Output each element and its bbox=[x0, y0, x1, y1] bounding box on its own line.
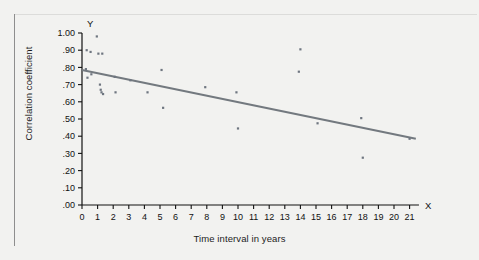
data-point bbox=[114, 91, 116, 93]
trendline bbox=[82, 70, 416, 139]
x-tick-label: 8 bbox=[204, 212, 209, 222]
data-point bbox=[86, 77, 88, 79]
data-point bbox=[162, 107, 164, 109]
data-point bbox=[360, 117, 362, 119]
x-tick-label: 7 bbox=[189, 212, 194, 222]
x-tick-label: 17 bbox=[342, 212, 352, 222]
data-point bbox=[90, 73, 92, 75]
data-point bbox=[97, 53, 99, 55]
x-tick-label: 16 bbox=[327, 212, 337, 222]
scatter-plot-svg: .00.10.20.30.40.50.60.70.80.901.00 01234… bbox=[0, 0, 479, 260]
x-tick-label: 10 bbox=[233, 212, 243, 222]
data-point bbox=[237, 127, 239, 129]
x-tick-label: 6 bbox=[173, 212, 178, 222]
y-tick-label: .20 bbox=[62, 166, 75, 176]
x-tick-label: 4 bbox=[142, 212, 147, 222]
data-points bbox=[85, 35, 411, 158]
data-point bbox=[204, 86, 206, 88]
y-tick-label: .40 bbox=[62, 131, 75, 141]
x-tick-label: 12 bbox=[264, 212, 274, 222]
axis-end-letters: YX bbox=[87, 18, 432, 211]
x-tick-label: 9 bbox=[220, 212, 225, 222]
y-axis: .00.10.20.30.40.50.60.70.80.901.00 bbox=[57, 28, 82, 210]
data-point bbox=[146, 91, 148, 93]
x-tick-label: 1 bbox=[95, 212, 100, 222]
data-point bbox=[129, 79, 131, 81]
y-tick-label: 1.00 bbox=[57, 28, 75, 38]
plot-area: .00.10.20.30.40.50.60.70.80.901.00 01234… bbox=[0, 0, 479, 260]
data-point bbox=[89, 51, 91, 53]
data-point bbox=[102, 93, 104, 95]
x-tick-label: 0 bbox=[79, 212, 84, 222]
y-tick-label: .80 bbox=[62, 63, 75, 73]
x-axis-label: Time interval in years bbox=[0, 233, 479, 244]
x-tick-label: 2 bbox=[111, 212, 116, 222]
trendline-segment bbox=[82, 70, 416, 139]
x-tick-label: 15 bbox=[311, 212, 321, 222]
y-tick-label: .30 bbox=[62, 149, 75, 159]
x-tick-label: 11 bbox=[249, 212, 258, 222]
data-point bbox=[362, 157, 364, 159]
y-axis-label: Correlation coefficient bbox=[23, 24, 34, 164]
data-point bbox=[298, 71, 300, 73]
x-tick-label: 19 bbox=[373, 212, 383, 222]
y-tick-label: .60 bbox=[62, 97, 75, 107]
x-tick-label: 3 bbox=[126, 212, 131, 222]
data-point bbox=[235, 91, 237, 93]
y-tick-label: .10 bbox=[62, 183, 75, 193]
data-point bbox=[316, 122, 318, 124]
x-tick-label: 21 bbox=[405, 212, 415, 222]
x-tick-label: 20 bbox=[389, 212, 399, 222]
y-tick-label: .50 bbox=[62, 114, 75, 124]
data-point bbox=[409, 138, 411, 140]
data-point bbox=[101, 53, 103, 55]
data-point bbox=[299, 48, 301, 50]
data-point bbox=[100, 89, 102, 91]
data-point bbox=[99, 84, 101, 86]
data-point bbox=[114, 76, 116, 78]
y-axis-letter: Y bbox=[87, 18, 94, 29]
y-tick-label: .90 bbox=[62, 45, 75, 55]
y-tick-label: .70 bbox=[62, 80, 75, 90]
x-axis-letter: X bbox=[425, 200, 432, 211]
figure-container: .00.10.20.30.40.50.60.70.80.901.00 01234… bbox=[0, 0, 479, 260]
data-point bbox=[86, 49, 88, 51]
x-tick-label: 18 bbox=[358, 212, 368, 222]
data-point bbox=[160, 69, 162, 71]
x-tick-label: 14 bbox=[295, 212, 305, 222]
data-point bbox=[96, 35, 98, 37]
x-axis: 0123456789101112131415161718192021 bbox=[79, 205, 418, 222]
x-tick-label: 13 bbox=[280, 212, 290, 222]
x-tick-label: 5 bbox=[157, 212, 162, 222]
data-point bbox=[85, 68, 87, 70]
y-tick-label: .00 bbox=[62, 200, 75, 210]
